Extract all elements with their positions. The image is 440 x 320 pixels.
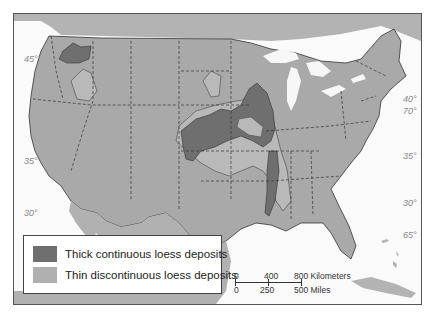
- lat-label-45: 45°: [24, 54, 38, 64]
- scale-bar: 0 400 800 Kilometers 0 250 500 Miles: [234, 271, 364, 301]
- lat-label-40-east: 40°: [403, 94, 417, 104]
- lon-label-65: 65°: [403, 230, 417, 240]
- lat-label-35-east: 35°: [403, 151, 417, 161]
- legend-item-thin: Thin discontinuous loess deposits: [33, 267, 237, 283]
- lat-label-30: 30°: [24, 208, 38, 218]
- thick-loess-swatch: [33, 246, 57, 262]
- thin-loess-swatch: [33, 267, 57, 283]
- lat-label-35: 35°: [24, 156, 38, 166]
- map-legend: Thick continuous loess deposits Thin dis…: [23, 235, 222, 294]
- lat-label-30-east: 30°: [403, 198, 417, 208]
- legend-item-thick: Thick continuous loess deposits: [33, 246, 227, 262]
- lon-label-70: 70°: [403, 106, 417, 116]
